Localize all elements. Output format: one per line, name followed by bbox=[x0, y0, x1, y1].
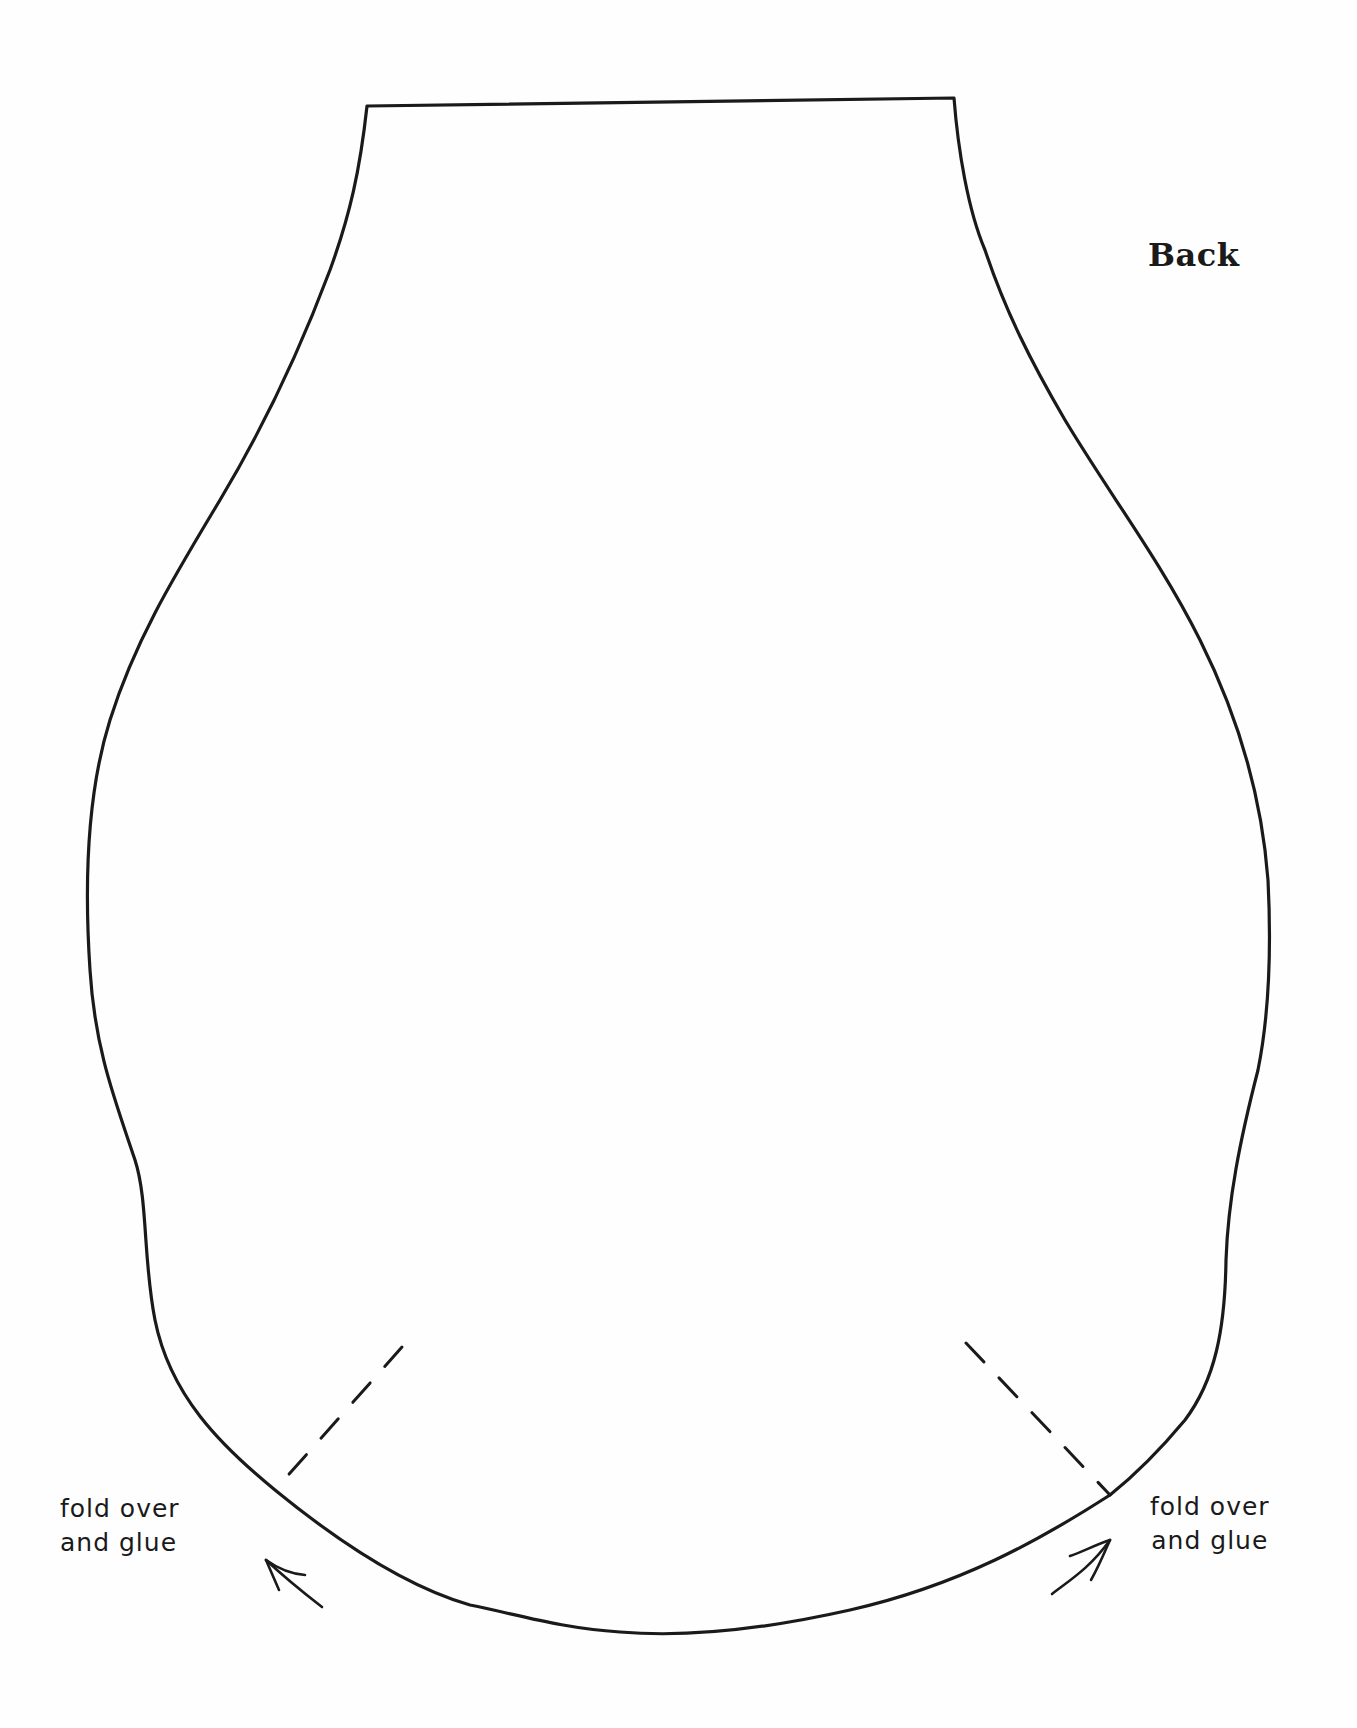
right-note-line1: fold over bbox=[1150, 1490, 1270, 1524]
left-note-line2: and glue bbox=[60, 1526, 180, 1560]
page-title: Back bbox=[1148, 236, 1239, 274]
right-fold-line bbox=[966, 1343, 1110, 1495]
left-fold-instruction: fold over and glue bbox=[60, 1492, 180, 1560]
outline-shape bbox=[87, 98, 1269, 1634]
right-fold-arrow-icon bbox=[1052, 1540, 1110, 1594]
right-fold-instruction: fold over and glue bbox=[1150, 1490, 1270, 1558]
template-page: Back fold over and glue fold over and gl… bbox=[0, 0, 1357, 1728]
right-note-line2: and glue bbox=[1150, 1524, 1270, 1558]
left-fold-line bbox=[275, 1347, 402, 1490]
left-note-line1: fold over bbox=[60, 1492, 180, 1526]
left-fold-arrow-icon bbox=[266, 1560, 322, 1607]
